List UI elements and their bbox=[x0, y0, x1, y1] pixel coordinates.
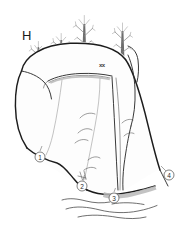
page-title: H bbox=[22, 28, 31, 43]
callout-label: 1 bbox=[38, 154, 42, 161]
callout-1[interactable]: 1 bbox=[35, 152, 45, 162]
callout-label: 4 bbox=[167, 172, 171, 179]
outcrop-sketch-canvas: H xx 1 2 3 4 bbox=[0, 0, 185, 227]
figure-root: H xx 1 2 3 4 bbox=[0, 0, 185, 227]
callout-label: 2 bbox=[80, 183, 84, 190]
callout-4[interactable]: 4 bbox=[164, 170, 174, 180]
callout-3[interactable]: 3 bbox=[109, 193, 119, 203]
callout-label: 3 bbox=[112, 195, 116, 202]
callout-2[interactable]: 2 bbox=[77, 181, 87, 191]
